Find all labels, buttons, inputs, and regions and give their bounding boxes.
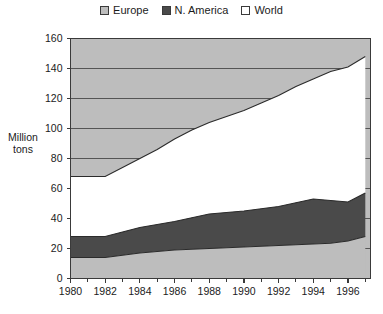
x-tick-label: 1990 [232, 285, 256, 297]
y-tick-label: 80 [51, 152, 63, 164]
x-tick-label: 1992 [267, 285, 291, 297]
y-tick-label: 0 [57, 272, 63, 284]
x-tick-label: 1988 [198, 285, 222, 297]
y-axis-ticks: 020406080100120140160 [45, 32, 71, 284]
y-tick-label: 40 [51, 212, 63, 224]
x-tick-label: 1984 [128, 285, 152, 297]
y-tick-label: 60 [51, 182, 63, 194]
y-tick-label: 20 [51, 242, 63, 254]
y-tick-label: 160 [45, 32, 63, 44]
x-tick-label: 1982 [94, 285, 118, 297]
stacked-area-chart: Europe N. America World Million tons 020… [0, 0, 383, 314]
y-tick-label: 140 [45, 62, 63, 74]
x-tick-label: 1980 [59, 285, 83, 297]
x-axis-ticks: 198019821984198619881990199219941996 [59, 279, 365, 297]
y-tick-label: 120 [45, 92, 63, 104]
y-tick-label: 100 [45, 122, 63, 134]
x-tick-label: 1986 [163, 285, 187, 297]
plot-area: 020406080100120140160 198019821984198619… [0, 0, 383, 314]
x-tick-label: 1994 [302, 285, 326, 297]
x-tick-label: 1996 [336, 285, 360, 297]
